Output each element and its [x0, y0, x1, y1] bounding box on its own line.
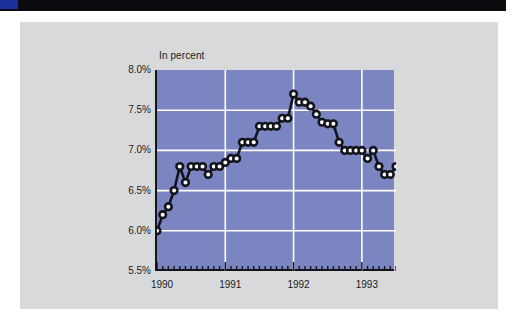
top-black-bar: [0, 0, 506, 11]
chart-figure-card: In percent 8.0%7.5%7.0%6.5%6.0%5.5% 1990…: [20, 22, 498, 309]
x-axis-tick-labels: 1990199119921993: [20, 22, 498, 309]
x-tick-label: 1992: [287, 279, 309, 290]
x-tick-label: 1990: [151, 279, 173, 290]
x-tick-label: 1993: [356, 279, 378, 290]
top-blue-accent-bar: [0, 0, 18, 9]
x-tick-label: 1991: [219, 279, 241, 290]
